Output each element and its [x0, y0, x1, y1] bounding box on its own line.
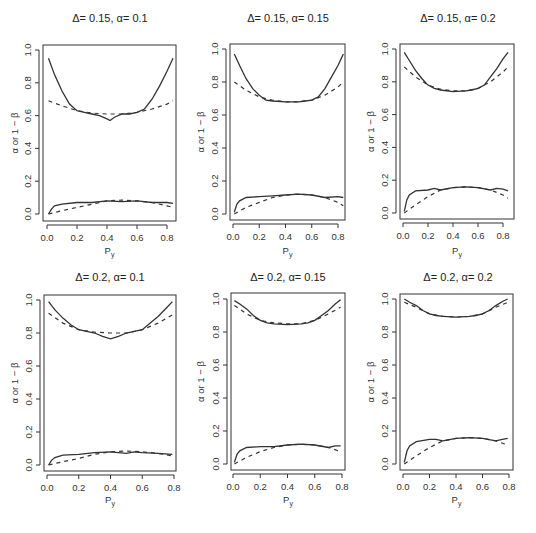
x-tick-label: 0.4: [446, 230, 459, 241]
solid-series-line: [49, 452, 173, 465]
y-tick-label: 0.0: [379, 206, 390, 219]
y-tick-label: 1.0: [209, 42, 220, 55]
y-axis-label: α or 1 − β: [9, 112, 20, 153]
y-tick-label: 1.0: [23, 293, 34, 306]
plot-panel-4: Δ= 0.2, α= 0.10.00.20.40.60.81.00.00.20.…: [9, 271, 181, 508]
x-tick-label: 0.4: [100, 232, 113, 243]
y-axis-label: α or 1 − β: [9, 362, 20, 403]
x-tick-label: 0.4: [279, 231, 292, 242]
y-tick-label: 0.6: [379, 108, 390, 121]
dashed-series-line: [49, 313, 173, 333]
y-tick-label: 1.0: [210, 292, 221, 305]
solid-series-line: [49, 58, 174, 120]
y-tick-label: 0.8: [23, 326, 34, 339]
x-tick-label: 0.4: [281, 481, 294, 492]
y-tick-label: 0.4: [379, 391, 390, 404]
solid-series-line: [404, 438, 507, 463]
x-tick-label: 0.8: [335, 481, 348, 492]
plot-frame: [400, 294, 513, 470]
y-tick-label: 0.8: [379, 75, 390, 88]
x-tick-label: 0.6: [308, 481, 321, 492]
x-tick-label: 0.6: [471, 230, 484, 241]
y-tick-label: 0.0: [22, 207, 33, 220]
x-tick-label: 0.0: [226, 231, 239, 242]
solid-series-line: [404, 299, 507, 317]
x-tick-label: 0.4: [104, 482, 117, 493]
x-axis-label: Py: [283, 245, 293, 259]
y-tick-label: 0.8: [209, 75, 220, 88]
x-tick-label: 0.0: [40, 232, 53, 243]
y-tick-label: 0.2: [209, 174, 220, 187]
y-tick-label: 0.6: [379, 358, 390, 371]
y-axis-label: α or 1 − β: [195, 111, 206, 152]
y-tick-label: 1.0: [379, 292, 390, 305]
plot-frame: [43, 45, 176, 221]
plot-frame: [400, 44, 514, 219]
y-tick-label: 0.4: [22, 142, 33, 155]
y-tick-label: 0.6: [210, 358, 221, 371]
x-axis-label: Py: [452, 494, 462, 508]
y-tick-label: 0.8: [22, 76, 33, 89]
y-tick-label: 0.0: [23, 458, 34, 471]
x-tick-label: 0.2: [423, 481, 436, 492]
x-tick-label: 0.0: [226, 481, 239, 492]
panel-title: Δ= 0.2, α= 0.15: [250, 271, 325, 283]
panel-title: Δ= 0.2, α= 0.2: [423, 271, 492, 283]
x-tick-label: 0.6: [136, 482, 149, 493]
x-tick-label: 0.8: [331, 231, 344, 242]
x-tick-label: 0.0: [396, 230, 409, 241]
y-tick-label: 0.8: [379, 325, 390, 338]
plot-panel-2: Δ= 0.15, α= 0.150.00.20.40.60.81.00.00.2…: [195, 12, 345, 259]
y-tick-label: 0.2: [379, 424, 390, 437]
y-tick-label: 0.0: [209, 207, 220, 220]
dashed-series-line: [404, 302, 507, 317]
y-tick-label: 0.4: [210, 391, 221, 404]
plot-panel-3: Δ= 0.15, α= 0.20.00.20.40.60.81.00.00.20…: [365, 12, 514, 259]
dashed-series-line: [404, 67, 508, 91]
x-tick-label: 0.8: [496, 230, 509, 241]
x-tick-label: 0.8: [167, 482, 180, 493]
x-tick-label: 0.2: [254, 481, 267, 492]
panel-title: Δ= 0.15, α= 0.2: [420, 12, 495, 24]
solid-series-line: [234, 444, 340, 462]
y-tick-label: 0.2: [22, 175, 33, 188]
y-tick-label: 1.0: [22, 43, 33, 56]
panel-title: Δ= 0.2, α= 0.1: [75, 271, 144, 283]
plot-panel-5: Δ= 0.2, α= 0.150.00.20.40.60.81.00.00.20…: [195, 271, 349, 508]
y-tick-label: 0.6: [23, 359, 34, 372]
plot-panel-6: Δ= 0.2, α= 0.20.00.20.40.60.81.00.00.20.…: [365, 271, 516, 508]
y-tick-label: 0.8: [210, 325, 221, 338]
y-axis-label: α or 1 − β: [365, 111, 376, 152]
solid-series-line: [404, 52, 508, 91]
dashed-series-line: [49, 101, 174, 114]
y-tick-label: 0.0: [210, 457, 221, 470]
solid-series-line: [234, 300, 340, 325]
solid-series-line: [234, 54, 343, 102]
y-axis-label: α or 1 − β: [195, 361, 206, 402]
x-tick-label: 0.2: [72, 482, 85, 493]
x-axis-label: Py: [452, 245, 462, 259]
plot-frame: [230, 44, 345, 220]
y-tick-label: 0.6: [22, 109, 33, 122]
x-tick-label: 0.4: [449, 481, 462, 492]
y-tick-label: 1.0: [379, 42, 390, 55]
y-tick-label: 0.4: [209, 141, 220, 154]
dashed-series-line: [234, 306, 340, 324]
x-axis-label: Py: [283, 494, 293, 508]
panel-title: Δ= 0.15, α= 0.15: [247, 12, 329, 24]
x-tick-label: 0.8: [502, 481, 515, 492]
panel-title: Δ= 0.15, α= 0.1: [72, 12, 147, 24]
y-tick-label: 0.4: [379, 141, 390, 154]
y-tick-label: 0.2: [23, 425, 34, 438]
x-tick-label: 0.6: [305, 231, 318, 242]
y-axis-label: α or 1 − β: [365, 361, 376, 402]
plot-panel-1: Δ= 0.15, α= 0.10.00.20.40.60.81.00.00.20…: [9, 12, 176, 259]
y-tick-label: 0.4: [23, 392, 34, 405]
y-tick-label: 0.6: [209, 108, 220, 121]
x-tick-label: 0.0: [40, 482, 53, 493]
y-tick-label: 0.2: [379, 174, 390, 187]
dashed-series-line: [49, 451, 173, 465]
y-tick-label: 0.2: [210, 424, 221, 437]
x-tick-label: 0.6: [476, 481, 489, 492]
x-tick-label: 0.6: [130, 232, 143, 243]
